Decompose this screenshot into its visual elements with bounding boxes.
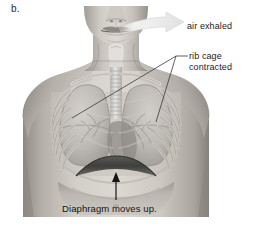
- label-rib-cage-line2: contracted: [189, 62, 232, 73]
- label-diaphragm-moves-up: Diaphragm moves up.: [62, 204, 157, 215]
- anatomy-illustration: [14, 6, 216, 217]
- figure-container: b.: [0, 0, 253, 235]
- label-rib-cage-contracted: rib cage contracted: [189, 51, 232, 72]
- label-rib-cage-line1: rib cage: [189, 51, 232, 62]
- label-air-exhaled: air exhaled: [187, 21, 232, 32]
